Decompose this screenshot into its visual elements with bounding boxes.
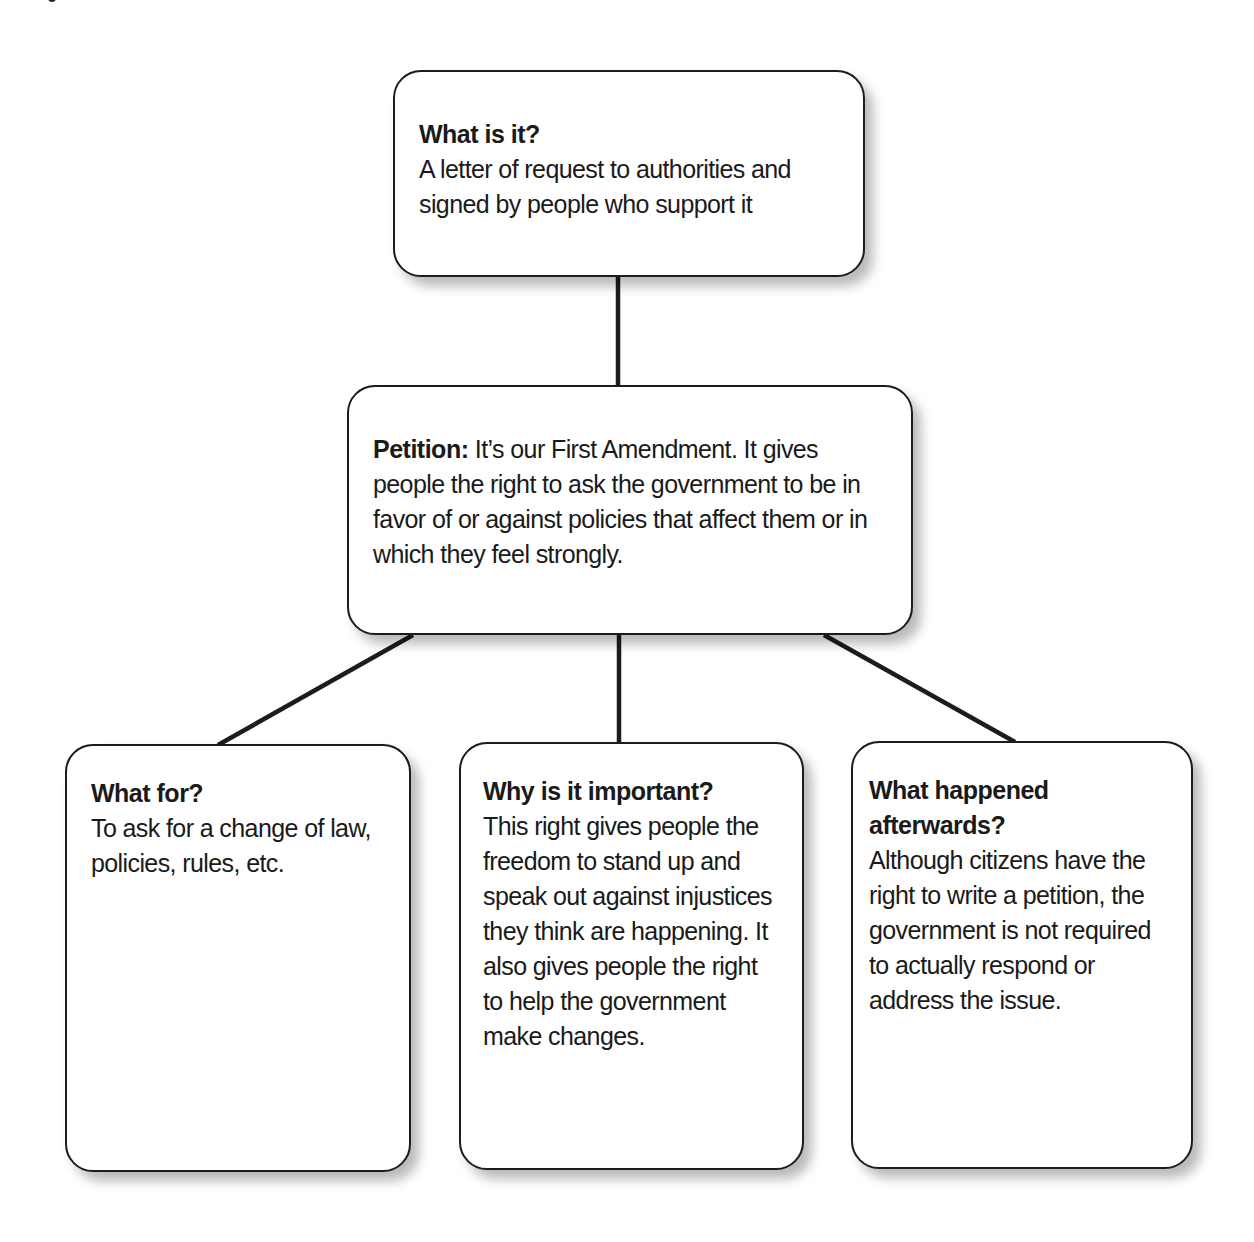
box-body: Although citizens have the right to writ… xyxy=(869,843,1175,1018)
concept-box-why-important: Why is it important? This right gives pe… xyxy=(459,742,804,1170)
box-heading: Petition: xyxy=(373,435,469,463)
box-body: This right gives people the freedom to s… xyxy=(483,809,780,1054)
connector-center-to-right xyxy=(824,635,1015,742)
concept-box-petition-center: Petition: It’s our First Amendment. It g… xyxy=(347,385,913,635)
concept-box-what-is-it: What is it? A letter of request to autho… xyxy=(393,70,865,277)
connector-center-to-left xyxy=(218,635,413,745)
concept-box-what-happened-afterwards: What happened afterwards? Although citiz… xyxy=(851,741,1193,1169)
box-heading: What happened afterwards? xyxy=(869,773,1175,843)
box-heading: Why is it important? xyxy=(483,774,780,809)
concept-box-what-for: What for? To ask for a change of law, po… xyxy=(65,744,411,1172)
box-heading: What for? xyxy=(91,776,385,811)
box-body: To ask for a change of law, policies, ru… xyxy=(91,811,385,881)
box-body: A letter of request to authorities and s… xyxy=(419,152,839,222)
box-heading: What is it? xyxy=(419,117,839,152)
